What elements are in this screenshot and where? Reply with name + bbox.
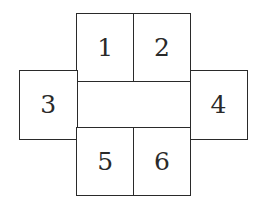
- face-6: 6: [133, 127, 191, 197]
- face-5: 5: [76, 127, 135, 197]
- face-2: 2: [133, 13, 191, 83]
- face-3: 3: [19, 70, 78, 140]
- center-band: [76, 81, 191, 128]
- face-4: 4: [190, 70, 248, 140]
- face-1: 1: [76, 13, 135, 83]
